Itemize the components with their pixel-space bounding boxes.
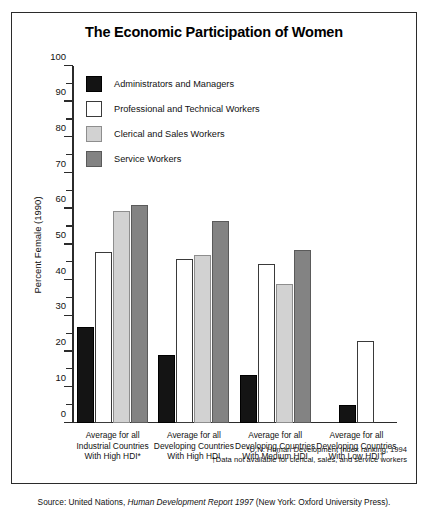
legend-swatch-icon	[86, 126, 102, 142]
bar	[357, 341, 374, 423]
legend-item: Clerical and Sales Workers	[86, 121, 260, 146]
source-prefix: Source: United Nations,	[38, 497, 128, 507]
footnote-dagger: †Data not available for clerical, sales,…	[212, 455, 407, 465]
bar	[113, 211, 130, 423]
bar	[176, 259, 193, 423]
y-axis-title-label: Percent Female (1990)	[32, 196, 43, 293]
legend-item: Professional and Technical Workers	[86, 96, 260, 121]
bar	[131, 205, 148, 423]
chart-legend: Administrators and ManagersProfessional …	[86, 71, 260, 171]
legend-item: Administrators and Managers	[86, 71, 260, 96]
legend-label: Administrators and Managers	[114, 79, 234, 89]
legend-swatch-icon	[86, 101, 102, 117]
bar	[95, 252, 112, 423]
legend-label: Professional and Technical Workers	[114, 104, 260, 114]
chart-source: Source: United Nations, Human Developmen…	[12, 497, 416, 507]
x-axis-label-line: Average for all	[235, 430, 315, 441]
bar-group: Average for allDeveloping CountriesWith …	[316, 66, 397, 423]
y-tick-label-50: 50	[55, 229, 66, 240]
chart-figure: The Economic Participation of Women Perc…	[11, 12, 417, 484]
source-suffix: (New York: Oxford University Press).	[253, 497, 390, 507]
y-tick-label-60: 60	[55, 193, 66, 204]
bar	[194, 255, 211, 423]
y-tick-label-10: 10	[55, 371, 66, 382]
bar	[212, 221, 229, 423]
x-axis-label-line: Average for all	[316, 430, 396, 441]
bar	[240, 375, 257, 423]
y-tick-label-90: 90	[55, 86, 66, 97]
bar	[276, 284, 293, 423]
x-axis-label-line: Average for all	[154, 430, 234, 441]
x-axis-label-line: With High HDI*	[77, 451, 149, 462]
bar	[294, 250, 311, 423]
chart-title: The Economic Participation of Women	[12, 24, 416, 40]
y-tick-label-80: 80	[55, 121, 66, 132]
chart-footnotes: *U.N. Human Development Index ranking, 1…	[212, 445, 407, 465]
legend-swatch-icon	[86, 76, 102, 92]
source-title: Human Development Report 1997	[128, 497, 254, 507]
legend-label: Clerical and Sales Workers	[114, 129, 225, 139]
y-axis-title: Percent Female (1990)	[30, 66, 44, 423]
y-tick-label-70: 70	[55, 157, 66, 168]
y-tick-label-20: 20	[55, 336, 66, 347]
x-axis-label: Average for allIndustrial CountriesWith …	[77, 430, 149, 462]
bar	[258, 264, 275, 423]
x-axis-label-line: Industrial Countries	[77, 441, 149, 452]
legend-label: Service Workers	[114, 154, 181, 164]
x-axis-label-line: Average for all	[77, 430, 149, 441]
legend-swatch-icon	[86, 151, 102, 167]
bar	[339, 405, 356, 423]
legend-item: Service Workers	[86, 146, 260, 171]
y-tick-label-40: 40	[55, 264, 66, 275]
y-tick-label-0: 0	[61, 407, 66, 418]
y-tick-label-30: 30	[55, 300, 66, 311]
y-tick-label-100: 100	[50, 50, 66, 61]
footnote-asterisk: *U.N. Human Development Index ranking, 1…	[212, 445, 407, 455]
bar	[77, 327, 94, 423]
bar	[158, 355, 175, 423]
